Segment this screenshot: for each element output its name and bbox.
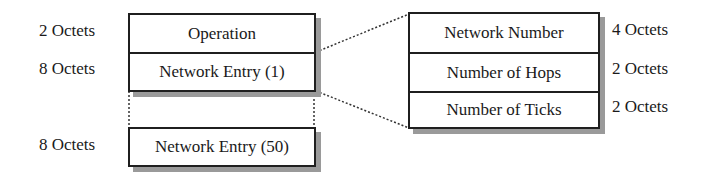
field-network-entry-50: Network Entry (50) bbox=[130, 129, 314, 165]
network-entry-50-box: Network Entry (50) bbox=[128, 127, 316, 167]
packet-header-box: Operation Network Entry (1) bbox=[128, 13, 316, 92]
field-network-number: Network Number bbox=[410, 14, 598, 52]
connector-lines bbox=[0, 0, 717, 186]
network-entry-detail-box: Network Number Number of Hops Number of … bbox=[408, 12, 600, 129]
field-operation: Operation bbox=[130, 15, 314, 52]
field-number-of-ticks: Number of Ticks bbox=[410, 91, 598, 127]
expansion-line-bottom bbox=[316, 91, 409, 128]
size-label-network-number: 4 Octets bbox=[612, 20, 668, 40]
field-network-entry-1: Network Entry (1) bbox=[130, 52, 314, 90]
expansion-line-top bbox=[316, 14, 409, 52]
size-label-number-of-ticks: 2 Octets bbox=[612, 97, 668, 117]
size-label-number-of-hops: 2 Octets bbox=[612, 59, 668, 79]
size-label-network-entry-1: 8 Octets bbox=[39, 59, 95, 79]
size-label-operation: 2 Octets bbox=[39, 21, 95, 41]
size-label-network-entry-50: 8 Octets bbox=[39, 135, 95, 155]
field-number-of-hops: Number of Hops bbox=[410, 52, 598, 91]
